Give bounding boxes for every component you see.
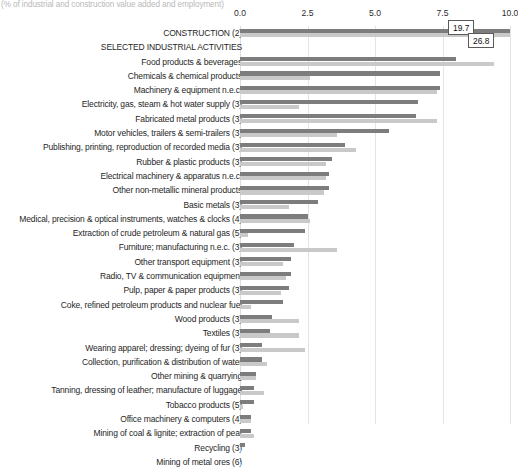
- bar-group: [240, 55, 517, 69]
- chart-row: Tanning, dressing of leather; manufactur…: [0, 383, 517, 397]
- chart-row: Electricity, gas, steam & hot water supp…: [0, 97, 517, 111]
- chart-row: Wood products (3): [0, 312, 517, 326]
- bar-employment: [240, 276, 286, 280]
- chart-row: Other non-metallic mineral products: [0, 183, 517, 197]
- chart-row: Other mining & quarrying: [0, 369, 517, 383]
- bar-value-added: [240, 114, 416, 118]
- chart-row: Basic metals (3): [0, 198, 517, 212]
- category-label: Mining of metal ores (6): [2, 455, 242, 469]
- bar-employment: [240, 76, 310, 80]
- bar-employment: [240, 333, 299, 337]
- bar-value-added: [240, 300, 283, 304]
- bar-group: [240, 283, 517, 297]
- bar-group: [240, 183, 517, 197]
- chart-row: Recycling (3): [0, 441, 517, 455]
- category-label: Tanning, dressing of leather; manufactur…: [2, 383, 242, 397]
- bar-value-added: [240, 458, 241, 462]
- chart-row: Machinery & equipment n.e.c.: [0, 83, 517, 97]
- category-label: Other mining & quarrying: [2, 369, 242, 383]
- category-label: Other non-metallic mineral products: [2, 183, 242, 197]
- bar-value-added: [240, 200, 318, 204]
- bar-value-added: [240, 129, 389, 133]
- bar-group: [240, 341, 517, 355]
- category-label: Chemicals & chemical products: [2, 69, 242, 83]
- callout-employment: 26.8: [468, 33, 494, 48]
- bar-employment: [240, 462, 241, 466]
- chart-row: Mining of metal ores (6): [0, 455, 517, 469]
- bar-value-added: [240, 343, 262, 347]
- bar-value-added: [240, 57, 456, 61]
- chart-subtitle: (% of industrial and construction value …: [1, 0, 224, 9]
- category-label: Textiles (3): [2, 326, 242, 340]
- bar-value-added: [240, 214, 308, 218]
- category-label: Electrical machinery & apparatus n.e.c.: [2, 169, 242, 183]
- bar-employment: [240, 319, 299, 323]
- bar-value-added: [240, 71, 440, 75]
- chart-row: Radio, TV & communication equipment: [0, 269, 517, 283]
- chart-row: Tobacco products (5): [0, 398, 517, 412]
- chart-row: Textiles (3): [0, 326, 517, 340]
- bar-group: [240, 198, 517, 212]
- category-label: Food products & beverages: [2, 55, 242, 69]
- chart-row: Medical, precision & optical instruments…: [0, 212, 517, 226]
- bar-group: [240, 269, 517, 283]
- bar-value-added: [240, 143, 345, 147]
- chart-row: CONSTRUCTION (2): [0, 26, 517, 40]
- chart-row: Motor vehicles, trailers & semi-trailers…: [0, 126, 517, 140]
- bar-employment: [240, 233, 248, 237]
- bar-group: [240, 441, 517, 455]
- bar-group: [240, 112, 517, 126]
- bar-group: [240, 355, 517, 369]
- bar-rows: CONSTRUCTION (2)SELECTED INDUSTRIAL ACTI…: [0, 26, 517, 469]
- bar-employment: [240, 376, 256, 380]
- category-label: Publishing, printing, reproduction of re…: [2, 140, 242, 154]
- bar-value-added: [240, 229, 305, 233]
- bar-value-added: [240, 257, 291, 261]
- bar-value-added: [240, 315, 272, 319]
- bar-employment: [240, 434, 254, 438]
- category-label: CONSTRUCTION (2): [2, 26, 242, 40]
- bar-employment: [240, 419, 251, 423]
- bar-value-added: [240, 272, 291, 276]
- chart-row: Mining of coal & lignite; extraction of …: [0, 426, 517, 440]
- bar-group: [240, 455, 517, 469]
- bar-group: [240, 169, 517, 183]
- chart-row: Collection, purification & distribution …: [0, 355, 517, 369]
- bar-group: [240, 69, 517, 83]
- x-tick-7-5: 7.5: [437, 8, 449, 18]
- category-label: Basic metals (3): [2, 198, 242, 212]
- bar-value-added: [240, 243, 294, 247]
- bar-group: [240, 126, 517, 140]
- category-label: Motor vehicles, trailers & semi-trailers…: [2, 126, 242, 140]
- chart-row: Publishing, printing, reproduction of re…: [0, 140, 517, 154]
- category-label: Rubber & plastic products (3): [2, 155, 242, 169]
- bar-employment: [240, 348, 305, 352]
- bar-employment: [240, 291, 281, 295]
- bar-employment: [240, 262, 283, 266]
- category-label: Recycling (3): [2, 441, 242, 455]
- chart-row: Extraction of crude petroleum & natural …: [0, 226, 517, 240]
- bar-group: [240, 240, 517, 254]
- x-tick-2-5: 2.5: [302, 8, 314, 18]
- bar-value-added: [240, 357, 262, 361]
- bar-employment: [240, 90, 437, 94]
- bar-value-added: [240, 100, 418, 104]
- category-label: Wood products (3): [2, 312, 242, 326]
- bar-employment: [240, 205, 289, 209]
- bar-group: [240, 212, 517, 226]
- category-label: SELECTED INDUSTRIAL ACTIVITIES: [2, 40, 242, 54]
- bar-value-added: [240, 372, 256, 376]
- bar-employment: [240, 391, 264, 395]
- bar-group: [240, 83, 517, 97]
- bar-group: [240, 369, 517, 383]
- bar-group: [240, 383, 517, 397]
- category-label: Medical, precision & optical instruments…: [2, 212, 242, 226]
- bar-group: [240, 312, 517, 326]
- bar-value-added: [240, 400, 254, 404]
- x-tick-5-0: 5.0: [369, 8, 381, 18]
- bar-group: [240, 298, 517, 312]
- bar-value-added: [240, 386, 254, 390]
- bar-value-added: [240, 443, 245, 447]
- chart-row: Coke, refined petroleum products and nuc…: [0, 298, 517, 312]
- category-label: Mining of coal & lignite; extraction of …: [2, 426, 242, 440]
